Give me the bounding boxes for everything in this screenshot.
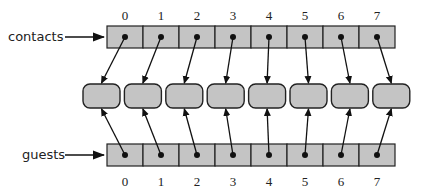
contacts-label: contacts: [8, 29, 64, 44]
object-2: [166, 84, 203, 108]
guests-index-3: 3: [230, 174, 237, 189]
guests-index-6: 6: [338, 174, 345, 189]
guests-index-4: 4: [266, 174, 273, 189]
object-row: [83, 84, 410, 108]
contacts-index-4: 4: [266, 8, 273, 23]
contacts-index-3: 3: [230, 8, 237, 23]
guests-array: 01234567: [107, 144, 395, 189]
contacts-index-0: 0: [122, 8, 129, 23]
guests-label: guests: [22, 147, 65, 162]
guests-index-0: 0: [122, 174, 129, 189]
contacts-index-2: 2: [194, 8, 201, 23]
guests-index-7: 7: [374, 174, 381, 189]
object-6: [331, 84, 368, 108]
object-4: [249, 84, 286, 108]
object-1: [124, 84, 161, 108]
guests-index-1: 1: [158, 174, 165, 189]
object-7: [373, 84, 410, 108]
object-5: [290, 84, 327, 108]
object-3: [207, 84, 244, 108]
contacts-index-5: 5: [302, 8, 309, 23]
guests-index-2: 2: [194, 174, 201, 189]
object-0: [83, 84, 120, 108]
contacts-index-1: 1: [158, 8, 165, 23]
contacts-array: 01234567: [107, 8, 395, 48]
guests-index-5: 5: [302, 174, 309, 189]
contacts-index-7: 7: [374, 8, 381, 23]
array-reference-diagram: contacts guests 01234567 01234567: [0, 0, 424, 193]
contacts-index-6: 6: [338, 8, 345, 23]
